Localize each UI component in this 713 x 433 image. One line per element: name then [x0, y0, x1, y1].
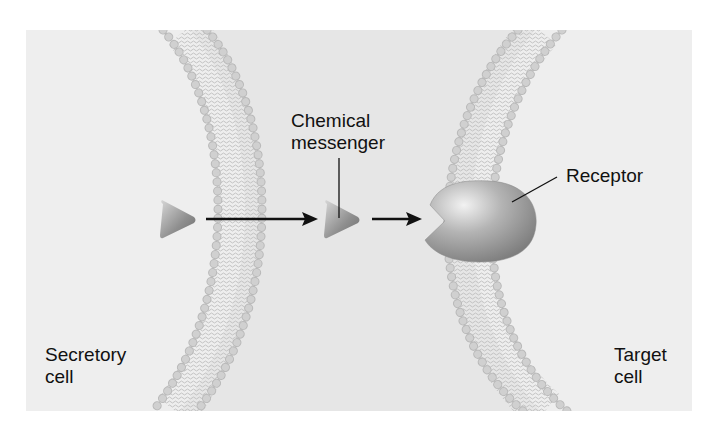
label-chemical-messenger: Chemical messenger: [291, 110, 385, 154]
label-secretory-cell-line1: Secretory: [45, 344, 126, 366]
label-chemical-messenger-line2: messenger: [291, 132, 385, 154]
label-target-cell: Target cell: [614, 344, 667, 388]
label-chemical-messenger-line1: Chemical: [291, 110, 385, 132]
label-target-cell-line1: Target: [614, 344, 667, 366]
label-receptor: Receptor: [566, 165, 643, 187]
label-secretory-cell: Secretory cell: [45, 344, 126, 388]
label-target-cell-line2: cell: [614, 366, 667, 388]
label-secretory-cell-line2: cell: [45, 366, 126, 388]
